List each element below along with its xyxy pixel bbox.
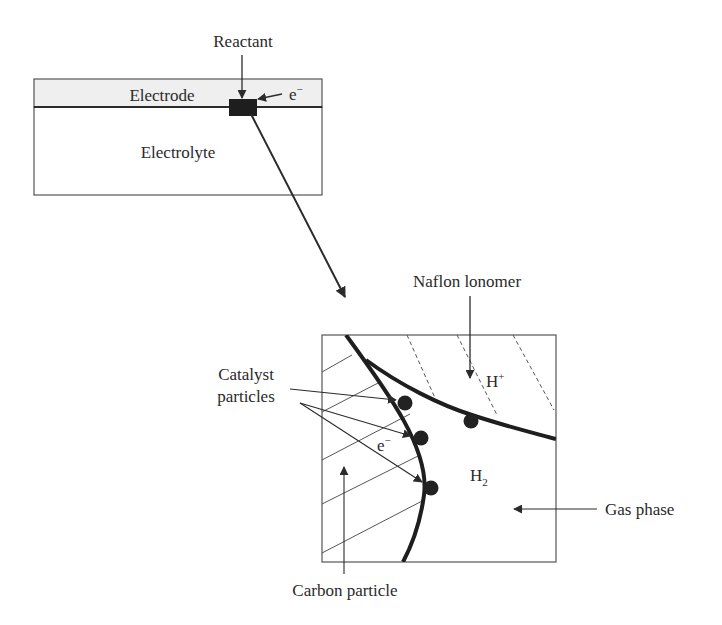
- catalyst-particle: [464, 414, 479, 429]
- reactant-label: Reactant: [213, 32, 273, 51]
- electrode-electrolyte-panel: Electrode Electrolyte Reactant e−: [34, 32, 322, 195]
- catalyst-label-line1: Catalyst: [218, 365, 274, 384]
- zoom-box: [322, 335, 556, 562]
- carbon-label: Carbon particle: [292, 581, 397, 600]
- catalyst-particle: [398, 396, 413, 411]
- catalyst-particle: [414, 431, 429, 446]
- catalyst-label-line2: particles: [217, 387, 275, 406]
- three-phase-boundary-diagram: Electrode Electrolyte Reactant e−: [0, 0, 722, 625]
- reaction-site-marker: [229, 99, 257, 116]
- catalyst-particle: [424, 481, 439, 496]
- electrode-label: Electrode: [129, 86, 194, 105]
- ionomer-label: Naflon lonomer: [413, 272, 521, 291]
- triple-phase-boundary-panel: H+ e− H2: [322, 335, 556, 562]
- gas-phase-label: Gas phase: [605, 500, 674, 519]
- electrolyte-label: Electrolyte: [141, 143, 216, 162]
